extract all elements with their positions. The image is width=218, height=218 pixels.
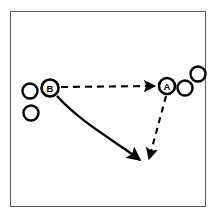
play-diagram: BA (0, 0, 218, 218)
ball-left-upper (23, 84, 38, 99)
player-marker-b: B (42, 80, 59, 97)
player-marker-b-circle (42, 80, 59, 97)
player-marker-a: A (159, 78, 175, 94)
ball-right-lower (178, 81, 193, 96)
pass-arrow-b-to-a (61, 86, 155, 87)
ball-right-upper (191, 67, 206, 82)
diagram-canvas: BA (0, 0, 218, 218)
player-marker-a-circle (159, 78, 175, 94)
movement-paths (57, 86, 166, 160)
ball-left-lower (24, 106, 39, 121)
cut-arrow-b-to-post (57, 96, 140, 160)
pass-arrow-a-to-post (149, 96, 166, 159)
